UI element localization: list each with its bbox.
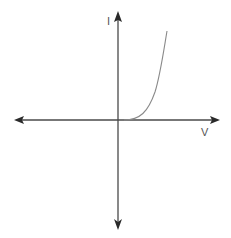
diagram-svg bbox=[0, 0, 231, 238]
x-axis bbox=[14, 116, 220, 124]
iv-curve bbox=[124, 31, 167, 120]
y-axis-label: I bbox=[107, 16, 110, 27]
iv-diagram: I V bbox=[0, 0, 231, 238]
x-axis-label: V bbox=[201, 127, 208, 138]
